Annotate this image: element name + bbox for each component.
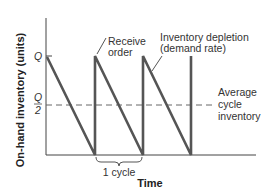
- y-axis-title: On-hand inventory (units): [14, 32, 26, 167]
- average-label-line3: inventory: [218, 110, 261, 122]
- cycle-label: 1 cycle: [103, 166, 136, 178]
- average-label-line1: Average: [218, 86, 257, 98]
- depletion-label-line2: (demand rate): [160, 42, 226, 54]
- depletion-pointer: [152, 56, 162, 71]
- inventory-cycle-chart: Q Q 2 On-hand inventory (units) Time Rec…: [0, 0, 273, 193]
- receive-label-line2: order: [108, 46, 133, 58]
- q-half-numerator: Q: [34, 91, 42, 103]
- q-label: Q: [34, 50, 42, 62]
- q-half-denominator: 2: [34, 104, 41, 116]
- average-label-line2: cycle: [218, 98, 242, 110]
- receive-order-pointer: [97, 38, 106, 54]
- cycle-brace: [96, 157, 142, 166]
- x-axis-title: Time: [137, 177, 162, 189]
